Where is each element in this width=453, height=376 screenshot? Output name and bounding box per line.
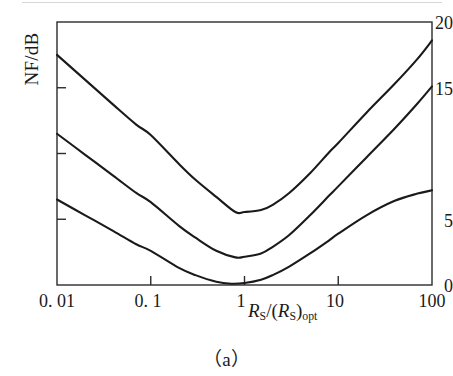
figure-a: NF/dB 20 15 5 0 0. 01 0. 1 1 10 100 RS/(… [0, 0, 453, 376]
plot-area [0, 0, 453, 376]
plot-frame [57, 22, 432, 285]
curve-upper-curve [57, 40, 432, 213]
curve-lower-curve [57, 190, 432, 283]
